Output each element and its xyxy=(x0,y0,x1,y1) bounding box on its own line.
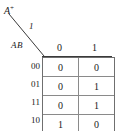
row-label-00: 00 xyxy=(16,57,40,75)
cell-r2-c0: 0 xyxy=(43,96,79,115)
output-variable-superscript: + xyxy=(10,4,14,12)
table-row: 0 1 xyxy=(43,77,115,96)
truth-table-grid: 0 0 0 1 0 1 1 0 xyxy=(42,57,115,131)
column-header-1: 1 xyxy=(77,40,112,55)
cell-r3-c0: 1 xyxy=(43,115,79,132)
cell-r0-c1: 0 xyxy=(79,58,115,77)
cell-r1-c1: 1 xyxy=(79,77,115,96)
column-header-0: 0 xyxy=(42,40,77,55)
table-row: 1 0 xyxy=(43,115,115,132)
table-row: 0 0 xyxy=(43,58,115,77)
karnaugh-state-table-figure: A+ 1 AB 0 1 00 01 11 10 0 0 0 1 0 1 1 0 xyxy=(0,0,119,131)
input-variable-label: 1 xyxy=(29,22,34,31)
state-variable-label: AB xyxy=(11,41,23,50)
table-row: 0 1 xyxy=(43,96,115,115)
cell-r0-c0: 0 xyxy=(43,58,79,77)
row-label-01: 01 xyxy=(16,75,40,93)
cell-r2-c1: 1 xyxy=(79,96,115,115)
row-label-11: 11 xyxy=(16,93,40,111)
output-variable-label: A+ xyxy=(4,5,14,16)
cell-r1-c0: 0 xyxy=(43,77,79,96)
cell-r3-c1: 0 xyxy=(79,115,115,132)
row-label-10: 10 xyxy=(16,111,40,129)
